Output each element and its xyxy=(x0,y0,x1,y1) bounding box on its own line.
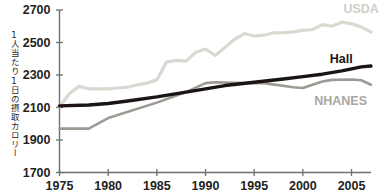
axes xyxy=(60,10,372,173)
x-tick-label: 2000 xyxy=(280,179,326,193)
data-series-group xyxy=(60,22,372,128)
y-tick-label: 2500 xyxy=(7,36,51,50)
x-tick-label: 1975 xyxy=(37,179,83,193)
series-label-usda: USDA xyxy=(343,2,378,16)
y-tick-label: 1700 xyxy=(7,166,51,180)
x-tick-label: 1995 xyxy=(231,179,277,193)
y-tick-label: 1900 xyxy=(7,133,51,147)
y-tick-label: 2300 xyxy=(7,68,51,82)
x-tick-label: 1990 xyxy=(183,179,229,193)
series-label-hall: Hall xyxy=(330,52,353,66)
series-label-nhanes: NHANES xyxy=(314,94,367,108)
x-tick-label: 2005 xyxy=(329,179,375,193)
y-tick-label: 2700 xyxy=(7,3,51,17)
x-tick-label: 1985 xyxy=(134,179,180,193)
y-tick-label: 2100 xyxy=(7,101,51,115)
x-tick-label: 1980 xyxy=(85,179,131,193)
